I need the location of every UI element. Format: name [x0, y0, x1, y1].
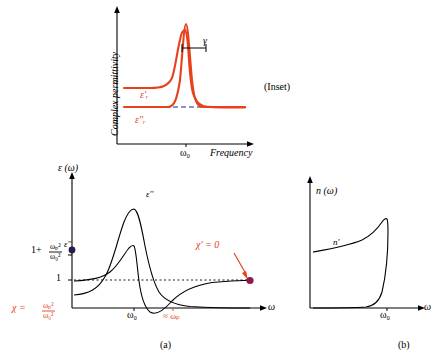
inset-x-axis-arrow: [247, 141, 254, 147]
panel-a-real-curve-label: ε'': [64, 240, 71, 249]
panel-b-omega0-label: ω₀: [380, 310, 390, 320]
panel-a-y-axis-arrow: [69, 172, 75, 179]
inset-real-part-label: ε'ᵣ: [140, 90, 149, 100]
panel-b-y-axis-label: n (ω): [316, 186, 337, 196]
panel-b-x-axis-label: ω: [424, 302, 431, 312]
panel-b: [307, 176, 425, 311]
panel-a-caption: (a): [160, 340, 171, 350]
panel-a-omegap-label: ≈ ωₚ: [163, 312, 180, 321]
inset-x-axis-label: Frequency: [210, 148, 252, 158]
inset-y-axis-arrow: [114, 6, 120, 13]
panel-b-y-axis-arrow: [307, 176, 313, 183]
panel-a-y-axis-label: ε (ω): [58, 163, 78, 173]
panel-a-real-curve: [74, 246, 250, 314]
panel-a-imag-curve-label: ε'': [146, 190, 153, 199]
panel-a-tick-one-plus: 1+: [31, 245, 42, 255]
figure-canvas: [0, 0, 436, 361]
panel-a-tick-one: 1: [56, 273, 61, 283]
inset-imaginary-part-label: ε''ᵣ: [135, 115, 146, 125]
panel-a-x-axis-arrow: [260, 305, 267, 311]
inset-gamma-label: γ: [203, 36, 207, 46]
panel-b-curve-label: n': [333, 238, 339, 247]
inset-caption: (Inset): [264, 82, 290, 92]
panel-a-chi-zero-dot: [246, 277, 253, 284]
panel-a: [42, 172, 267, 313]
panel-a-chi-zero-label: χ' = 0: [196, 240, 219, 250]
inset-y-axis-label: Complex permittivity: [110, 52, 120, 136]
panel-b-upper-branch: [313, 219, 388, 252]
inset-panel: [114, 6, 254, 147]
panel-a-chi-zero-arrow: [234, 253, 246, 274]
panel-a-chi-ratio-bottom: ω₀²: [43, 312, 53, 320]
inset-omega0-label: ω₀: [180, 148, 190, 158]
panel-a-omega0-label: ω₀: [127, 310, 137, 320]
panel-b-caption: (b): [398, 340, 410, 350]
panel-a-imaginary-curve: [74, 209, 250, 308]
panel-a-x-axis-label: ω: [268, 302, 275, 312]
panel-a-chi-label: χ =: [12, 303, 26, 313]
panel-a-tick-ratio-top: ωₚ²: [50, 243, 61, 251]
panel-a-chi-ratio-top: ωₚ²: [43, 302, 54, 310]
panel-a-tick-ratio-bottom: ω₀²: [50, 253, 60, 261]
